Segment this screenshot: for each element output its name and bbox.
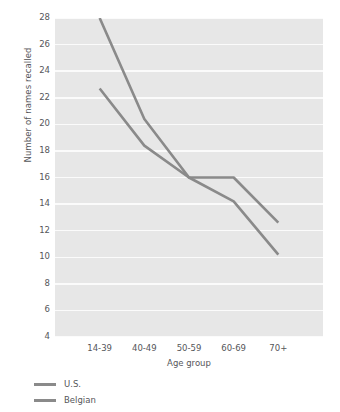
y-tick-label: 24 [28,66,50,75]
line-chart: Number of names recalled 468101214161820… [0,0,340,412]
x-tick-label: 60-69 [221,343,246,353]
x-tick-label: 70+ [269,343,287,353]
legend-item: U.S. [34,376,234,392]
y-tick-label: 8 [28,279,50,288]
series-line [100,18,279,255]
x-tick-label: 50-59 [177,343,202,353]
x-tick-label: 40-49 [132,343,157,353]
chart-legend: U.S.Belgian [34,376,234,408]
legend-label: U.S. [64,379,81,389]
y-tick-label: 28 [28,13,50,22]
y-tick-label: 22 [28,93,50,102]
y-axis-tick-labels: 46810121416182022242628 [26,0,50,412]
plot-area [55,18,323,337]
x-tick-label: 14-39 [87,343,112,353]
y-tick-label: 14 [28,199,50,208]
legend-swatch-icon [34,383,56,386]
y-tick-label: 20 [28,119,50,128]
y-tick-label: 16 [28,173,50,182]
legend-swatch-icon [34,399,56,402]
y-tick-label: 4 [28,332,50,341]
y-tick-label: 12 [28,226,50,235]
series-line [100,88,279,222]
x-axis-title: Age group [55,358,323,368]
legend-item: Belgian [34,392,234,408]
series-lines [55,18,323,337]
y-tick-label: 26 [28,40,50,49]
legend-label: Belgian [64,395,96,405]
y-tick-label: 6 [28,305,50,314]
y-tick-label: 18 [28,146,50,155]
y-tick-label: 10 [28,252,50,261]
